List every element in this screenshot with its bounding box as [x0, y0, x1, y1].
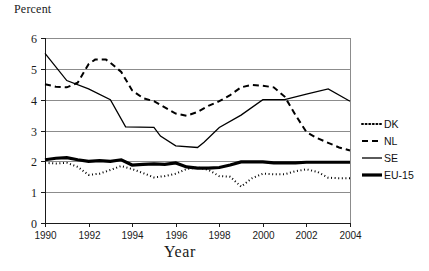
legend-label-nl: NL — [384, 135, 398, 147]
x-tick-label: 2002 — [295, 230, 318, 241]
xtick-labels-group: 19901992199419961998200020022004 — [34, 230, 362, 241]
y-tick-label: 0 — [31, 217, 37, 231]
series-line-nl — [45, 60, 350, 151]
x-tick-label: 1994 — [121, 230, 144, 241]
legend-group: DKNLSEEU-15 — [362, 118, 414, 181]
y-tick-label: 1 — [31, 186, 37, 200]
series-line-eu-15 — [45, 158, 350, 168]
chart-page: Percent 0123456 199019921994199619982000… — [0, 0, 429, 271]
y-tick-label: 6 — [31, 32, 37, 46]
series-line-dk — [45, 163, 350, 187]
x-tick-label: 1998 — [208, 230, 231, 241]
legend-label-dk: DK — [384, 118, 399, 130]
y-tick-label: 4 — [31, 94, 37, 108]
x-axis-title: Year — [0, 243, 360, 261]
legend-label-eu-15: EU-15 — [384, 169, 414, 181]
y-tick-label: 2 — [31, 155, 37, 169]
line-chart-plot: 0123456 19901992199419961998200020022004… — [0, 0, 429, 271]
legend-label-se: SE — [384, 152, 398, 164]
y-tick-label: 5 — [31, 63, 37, 77]
series-group — [45, 53, 350, 186]
y-tick-label: 3 — [31, 125, 37, 139]
x-tick-label: 2000 — [252, 230, 275, 241]
x-tick-label: 2004 — [339, 230, 362, 241]
x-tick-label: 1990 — [34, 230, 57, 241]
x-tick-label: 1992 — [78, 230, 101, 241]
x-tick-label: 1996 — [165, 230, 188, 241]
ytick-labels-group: 0123456 — [31, 32, 37, 231]
gridlines-group — [45, 39, 350, 224]
